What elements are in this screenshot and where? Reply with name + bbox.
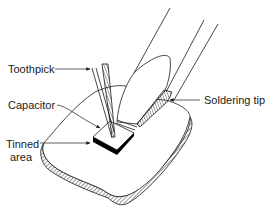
- tinned-area-label-line2: area: [10, 151, 32, 163]
- toothpick-label: Toothpick: [8, 63, 54, 75]
- tinned-area-label-line1: Tinned: [6, 138, 39, 150]
- soldering-diagram: [0, 0, 265, 222]
- capacitor-label: Capacitor: [8, 99, 55, 111]
- soldering-tip-label: Soldering tip: [204, 94, 265, 106]
